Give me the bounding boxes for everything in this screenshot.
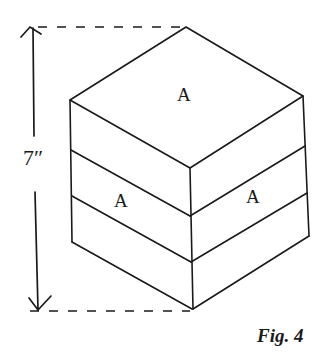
- arrow-up-head: [21, 27, 41, 37]
- right-face-label: A: [246, 186, 260, 207]
- left-face-label: A: [114, 190, 128, 211]
- left-face: [70, 100, 192, 309]
- front-edge: [190, 168, 193, 309]
- height-label: 7″: [23, 145, 43, 170]
- stacked-cube-diagram: 7″ A A A Fig. 4: [0, 0, 332, 354]
- arrow-down-head: [29, 296, 51, 310]
- top-face-label: A: [177, 84, 191, 105]
- figure-caption: Fig. 4: [256, 325, 303, 346]
